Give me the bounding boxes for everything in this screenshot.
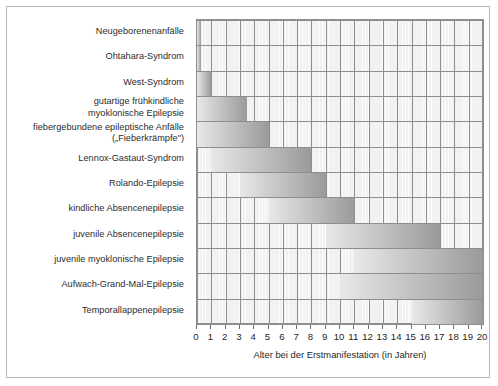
category-label-line: Aufwach-Grand-Mal-Epilepsie — [61, 279, 184, 290]
gridline-vertical — [283, 20, 284, 324]
category-label-line: Neugeborenenanfälle — [96, 26, 184, 37]
bar — [240, 173, 326, 197]
x-tick — [411, 325, 412, 329]
category-label: Ohtahara-Syndrom — [7, 44, 184, 69]
x-tick-label: 0 — [193, 331, 198, 342]
x-tick-label: 16 — [419, 331, 430, 342]
x-tick-label: 6 — [279, 331, 284, 342]
category-label: juvenile myoklonische Epilepsie — [7, 247, 184, 272]
x-tick-label: 5 — [265, 331, 270, 342]
x-tick — [268, 325, 269, 329]
gridline-vertical — [211, 20, 212, 324]
gridline-vertical — [326, 20, 327, 324]
x-tick — [453, 325, 454, 329]
category-label-line: gutartige frühkindliche — [88, 96, 184, 107]
x-tick — [282, 325, 283, 329]
x-axis-tick-labels: 01234567891011121314151617181920 — [196, 331, 484, 345]
gridline-vertical — [226, 20, 227, 324]
gridline-vertical — [269, 20, 270, 324]
bar — [197, 46, 201, 70]
category-label-line: fiebergebundene epileptische Anfälle — [33, 122, 184, 133]
x-tick-label: 14 — [391, 331, 402, 342]
x-tick — [310, 325, 311, 329]
gridline-horizontal — [197, 45, 483, 46]
bar — [197, 21, 201, 45]
category-label: West-Syndrom — [7, 70, 184, 95]
category-label: Lennox-Gastaut-Syndrom — [7, 146, 184, 171]
x-tick-label: 9 — [322, 331, 327, 342]
x-tick-label: 7 — [293, 331, 298, 342]
x-tick-label: 2 — [222, 331, 227, 342]
x-tick — [481, 325, 482, 329]
category-label-line: Lennox-Gastaut-Syndrom — [78, 153, 184, 164]
x-tick-label: 8 — [308, 331, 313, 342]
chart-figure: NeugeborenenanfälleOhtahara-SyndromWest-… — [6, 6, 490, 378]
x-tick-label: 3 — [236, 331, 241, 342]
x-tick-label: 17 — [434, 331, 445, 342]
category-label: gutartige frühkindlichemyoklonische Epil… — [7, 95, 184, 120]
bar — [197, 122, 269, 146]
x-tick — [253, 325, 254, 329]
x-tick — [368, 325, 369, 329]
category-label: fiebergebundene epileptische Anfälle(„Fi… — [7, 120, 184, 145]
x-tick — [353, 325, 354, 329]
x-tick — [225, 325, 226, 329]
gridline-vertical — [297, 20, 298, 324]
bar — [211, 148, 311, 172]
bar — [354, 249, 483, 273]
x-tick — [425, 325, 426, 329]
bar — [197, 72, 211, 96]
x-axis-title: Alter bei der Erstmanifestation (in Jahr… — [196, 349, 484, 360]
category-label: juvenile Absencenepilepsie — [7, 222, 184, 247]
category-label-line: kindliche Absencenepilepsie — [69, 203, 184, 214]
category-label-line: juvenile Absencenepilepsie — [73, 229, 184, 240]
x-tick-label: 19 — [462, 331, 473, 342]
x-tick — [210, 325, 211, 329]
gridline-vertical — [254, 20, 255, 324]
x-tick — [239, 325, 240, 329]
category-label-line: Temporallappenepilepsie — [82, 305, 184, 316]
plot-area — [196, 19, 484, 325]
x-tick-label: 20 — [477, 331, 488, 342]
category-label: Rolando-Epilepsie — [7, 171, 184, 196]
x-tick-label: 15 — [405, 331, 416, 342]
x-tick — [196, 325, 197, 329]
category-label-line: West-Syndrom — [123, 77, 184, 88]
category-label: Aufwach-Grand-Mal-Epilepsie — [7, 272, 184, 297]
x-tick — [439, 325, 440, 329]
x-tick — [396, 325, 397, 329]
x-tick-label: 12 — [362, 331, 373, 342]
category-label-line: Rolando-Epilepsie — [109, 178, 184, 189]
gridline-horizontal — [197, 71, 483, 72]
x-tick — [296, 325, 297, 329]
x-tick-label: 18 — [448, 331, 459, 342]
category-label-line: myoklonische Epilepsie — [88, 108, 184, 119]
bar — [269, 198, 355, 222]
bar — [197, 97, 247, 121]
x-tick-label: 11 — [348, 331, 358, 342]
x-tick-label: 10 — [334, 331, 345, 342]
category-label: Neugeborenenanfälle — [7, 19, 184, 44]
x-tick — [339, 325, 340, 329]
bar — [412, 300, 484, 324]
bar — [326, 224, 440, 248]
x-tick — [468, 325, 469, 329]
gridline-vertical — [240, 20, 241, 324]
x-tick — [382, 325, 383, 329]
bar — [340, 274, 483, 298]
x-tick-label: 13 — [377, 331, 388, 342]
x-tick-label: 1 — [208, 331, 213, 342]
category-label-line: juvenile myoklonische Epilepsie — [54, 254, 184, 265]
category-label: Temporallappenepilepsie — [7, 298, 184, 323]
gridline-horizontal — [197, 20, 483, 21]
category-label-line: Ohtahara-Syndrom — [106, 51, 184, 62]
category-label-line: („Fieberkrämpfe") — [33, 133, 184, 144]
category-label: kindliche Absencenepilepsie — [7, 196, 184, 221]
gridline-vertical — [311, 20, 312, 324]
x-tick-label: 4 — [251, 331, 256, 342]
x-tick — [325, 325, 326, 329]
category-label-column: NeugeborenenanfälleOhtahara-SyndromWest-… — [7, 19, 190, 325]
